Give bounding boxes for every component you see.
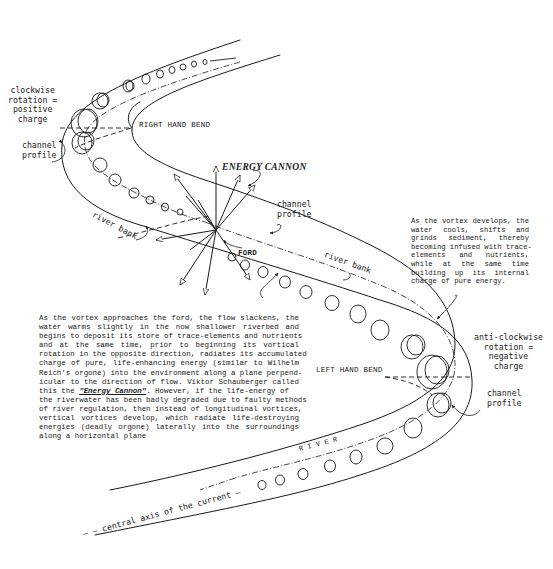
leader-energy-cannon [248,170,260,186]
ford-label: FORD [238,249,257,259]
paragraph-line: rotation in the opposite direction, radi… [39,350,299,359]
channel-profile-label-mid: channel profile [277,200,312,219]
label-line: profile [487,399,522,409]
paragraph-line: while at the same time [411,260,529,269]
left-hand-bend-label: LEFT HAND BEND [316,366,383,376]
channel-profile-label-bottom: channel profile [487,389,522,408]
paragraph-line: water cools, shifts and [411,226,529,235]
energy-cannon-emphasis: "Energy Cannon" [79,387,146,395]
paragraph-line: the riverwater has been badly degraded d… [39,396,299,405]
paragraph-line: along a horizontal plane [39,432,299,441]
spirals-clockwise [71,58,236,215]
paragraph-line: building up its internal [411,269,529,278]
paragraph-line: energies (deadly orgone) laterally into … [39,423,299,432]
text-fragment: . However, if the life-energy of [146,387,289,395]
channel-profile-curve-bottom [385,377,432,395]
channel-profile-curve-top [75,128,131,148]
paragraph-line: of river regulation, then instead of lon… [39,405,299,414]
paragraph-line: icular to the direction of flow. Viktor … [39,378,299,387]
ford-approach-paragraph: As the vortex approaches the ford, the f… [39,314,299,441]
label-line: charge [8,115,57,125]
outer-bank-upper [62,40,472,535]
paragraph-line: water warms slightly in the now shallowe… [39,323,299,332]
paragraph-line: charge of pure energy. [411,277,529,286]
paragraph-line: becoming infused with trace- [411,243,529,252]
paragraph-line: charge of pure, life-enhancing energy (s… [39,359,299,368]
paragraph-line: vertical vortices develop, which radiate… [39,414,299,423]
clockwise-rotation-label: clockwise rotation = positive charge [8,86,57,124]
paragraph-line: grinds sediment, thereby [411,234,529,243]
channel-profile-label-top: channel profile [22,141,57,160]
paragraph-line: Reich's orgone) into the environment alo… [39,369,299,378]
paragraph-line: begins to deposit its store of trace-ele… [39,332,299,341]
vortex-develops-paragraph: As the vortex develops, the water cools,… [411,217,529,286]
leader-ford-spiral [261,273,278,298]
paragraph-line: and at the same time, prior to beginning… [39,341,299,350]
anticlockwise-rotation-label: anti-clockwise rotation = negative charg… [474,333,543,371]
paragraph-line: As the vortex develops, the [411,217,529,226]
text-fragment: this the [39,387,79,395]
leader-ford [224,240,242,248]
label-line: charge [474,362,543,372]
energy-cannon-arrows [156,166,255,295]
energy-cannon-label: ENERGY CANNON [222,163,307,173]
paragraph-line: elements and nutrients, [411,251,529,260]
central-axis-upper [84,62,240,222]
right-hand-bend-label: RIGHT HAND BEND [139,121,210,131]
label-line: profile [22,151,57,161]
leader-channel-profile-mid [270,224,281,233]
paragraph-line-emphasis: this the "Energy Cannon". However, if th… [39,387,299,396]
label-line: profile [277,210,312,220]
leader-river-bank-right [343,273,350,280]
paragraph-line: As the vortex approaches the ford, the f… [39,314,299,323]
